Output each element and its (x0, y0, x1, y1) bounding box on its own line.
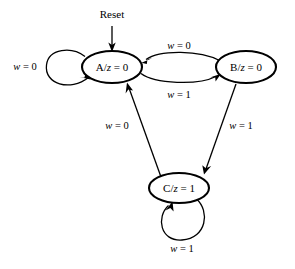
state-node-c[interactable]: C/z = 1 (149, 173, 209, 203)
condition-var-w: w (13, 61, 20, 72)
condition-var-w: w (167, 89, 174, 100)
fsm-canvas: Reset w = 0 w = 0 w = 1 (0, 0, 295, 269)
state-b-suffix: = 0 (245, 61, 263, 73)
a-to-b-path (141, 74, 216, 83)
state-node-b[interactable]: B/z = 0 (216, 51, 276, 83)
transition-label-a-self: w = 0 (13, 61, 36, 72)
transition-a-to-b (141, 74, 221, 83)
condition-var-w: w (167, 40, 174, 51)
transition-label-a-to-b: w = 1 (167, 89, 190, 100)
c-to-a-line (129, 88, 161, 177)
condition-suffix: = 0 (174, 40, 190, 51)
transition-c-self-loop (161, 199, 204, 240)
c-self-loop-path (161, 199, 204, 240)
condition-var-w: w (170, 243, 177, 254)
condition-var-w: w (105, 120, 112, 131)
condition-suffix: = 1 (236, 120, 252, 131)
b-to-a-path (146, 52, 220, 60)
state-c-suffix: = 1 (178, 182, 195, 194)
transition-label-b-to-c: w = 1 (229, 120, 252, 131)
state-b-label: B/z = 0 (230, 61, 262, 73)
state-a-suffix: = 0 (111, 61, 129, 73)
transition-label-c-to-a: w = 0 (105, 120, 128, 131)
transition-c-to-a (126, 83, 161, 178)
condition-var-w: w (229, 120, 236, 131)
condition-suffix: = 0 (20, 61, 36, 72)
transition-b-to-a (142, 52, 220, 64)
c-to-a-arrowhead-icon (126, 83, 133, 94)
state-node-a[interactable]: A/z = 0 (82, 51, 142, 83)
condition-suffix: = 1 (177, 243, 193, 254)
reset-label: Reset (100, 8, 124, 20)
condition-suffix: = 1 (174, 89, 190, 100)
condition-suffix: = 0 (112, 120, 128, 131)
reset-arrow-group (108, 26, 115, 52)
state-diagram-figure: Reset w = 0 w = 0 w = 1 (0, 0, 295, 269)
state-c-label: C/z = 1 (163, 182, 195, 194)
state-a-label: A/z = 0 (96, 61, 129, 73)
transition-label-c-self: w = 1 (170, 243, 193, 254)
transition-label-b-to-a: w = 0 (167, 40, 190, 51)
